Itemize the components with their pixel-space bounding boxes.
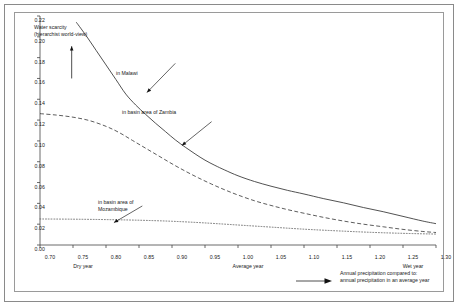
y-tick-label: 0.04 [19, 204, 45, 210]
y-tick-label: 0.10 [19, 142, 45, 148]
figure: 0.000.020.040.060.080.100.120.140.160.18… [0, 0, 460, 307]
y-tick-label: 0.12 [19, 121, 45, 127]
y-tick-label: 0.22 [19, 17, 45, 23]
y-tick-label: 0.00 [19, 246, 45, 252]
caption-arrowhead [325, 278, 333, 284]
y-tick-label: 0.16 [19, 79, 45, 85]
x-tick-label: 1.30 [429, 254, 460, 260]
x-tick-label: 0.70 [33, 254, 67, 260]
x-axis-period-label: Average year [223, 263, 273, 269]
annotation-layer [70, 46, 332, 284]
x-tick-label: 0.80 [99, 254, 133, 260]
y-tick-label: 0.14 [19, 100, 45, 106]
series-line [40, 114, 436, 233]
y-tick-label: 0.08 [19, 163, 45, 169]
annotation-leader-line [147, 63, 175, 92]
x-tick-label: 0.75 [66, 254, 100, 260]
y-tick-label: 0.20 [19, 38, 45, 44]
x-axis-period-label: Wet year [388, 263, 438, 269]
x-tick-label: 0.95 [198, 254, 232, 260]
x-tick-label: 1.00 [231, 254, 265, 260]
zambia-series-label: in basin area of Zambia [122, 109, 176, 116]
x-tick-label: 1.20 [363, 254, 397, 260]
x-tick-label: 0.85 [132, 254, 166, 260]
series-line [76, 22, 436, 223]
x-tick-label: 1.05 [264, 254, 298, 260]
mozambique-series-label: in basin area of Mozambique [98, 199, 133, 212]
x-axis-period-label: Dry year [58, 263, 108, 269]
annotation-arrowhead [70, 46, 74, 50]
malawi-series-label: in Malawi [116, 70, 138, 77]
annotation-leader-line [182, 122, 212, 146]
x-tick-label: 1.15 [330, 254, 364, 260]
x-tick-label: 0.90 [165, 254, 199, 260]
x-tick-label: 1.25 [396, 254, 430, 260]
y-tick-label: 0.02 [19, 225, 45, 231]
x-tick-label: 1.10 [297, 254, 331, 260]
series-line [40, 219, 436, 234]
y-tick-label: 0.06 [19, 184, 45, 190]
x-axis-caption: Annual precipitation compared to: annual… [340, 270, 429, 284]
y-tick-label: 0.18 [19, 59, 45, 65]
water-scarcity-annotation: Water scarcity (hierarchist world-view) [34, 24, 87, 37]
